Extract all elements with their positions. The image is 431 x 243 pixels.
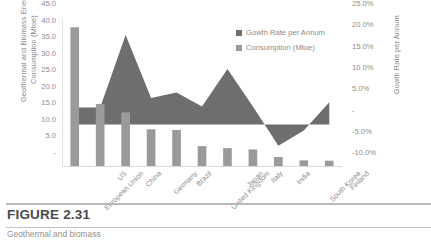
y-left-tick: 20.0 (41, 83, 56, 91)
bar (147, 129, 156, 167)
x-axis-category-label: Italy (269, 169, 285, 185)
y-right-tick: 5.0% (352, 85, 369, 93)
bar (121, 112, 130, 167)
y-left-tick: 40.0 (41, 17, 56, 25)
chart-canvas: Geothermal and Biomass Energy Consumptio… (0, 4, 431, 200)
figure-container: Geothermal and Biomass Energy Consumptio… (0, 0, 431, 243)
y-axis-right-title: Gowth Rate per Annum (392, 7, 402, 103)
y-left-tick: 35.0 (41, 33, 56, 41)
y-right-tick: -10.0% (352, 149, 376, 157)
legend-label: Gowth Rate per Annum (246, 28, 325, 37)
caption-rule-top (6, 203, 431, 205)
legend-swatch-icon (236, 45, 242, 51)
bar (223, 148, 232, 167)
figure-caption-text: Geothermal and biomass (7, 229, 101, 243)
y-left-tick: 5.0 (45, 132, 56, 140)
y-left-tick: 30.0 (41, 50, 56, 58)
y-left-tick: 25.0 (41, 66, 56, 74)
figure-caption-block: FIGURE 2.31 Geothermal and biomass (0, 203, 431, 243)
chart-legend: Gowth Rate per Annum Consumption (Mtoe) (236, 28, 325, 58)
y-right-tick: 15.0% (352, 43, 374, 51)
y-axis-left-ticks: 45.0 40.0 35.0 30.0 25.0 20.0 15.0 10.0 … (26, 4, 56, 153)
y-right-tick: 25.0% (352, 0, 374, 8)
y-left-tick: 15.0 (41, 99, 56, 107)
figure-number-label: FIGURE 2.31 (7, 207, 90, 222)
x-axis-category-label: India (295, 169, 312, 186)
y-axis-right-ticks: 25.0% 20.0% 15.0% 10.0% 5.0% - -5.0% -10… (352, 4, 392, 153)
y-right-tick: 10.0% (352, 64, 374, 72)
y-right-tick: -5.0% (352, 128, 372, 136)
y-left-tick: 10.0 (41, 116, 56, 124)
bar (70, 27, 79, 167)
legend-label: Consumption (Mtoe) (246, 43, 315, 52)
legend-swatch-icon (236, 30, 242, 36)
y-right-tick: - (352, 107, 355, 115)
caption-rule-bottom (6, 227, 431, 228)
bar (96, 104, 105, 167)
y-right-tick: 20.0% (352, 21, 374, 29)
legend-item-consumption: Consumption (Mtoe) (236, 43, 325, 52)
bar (172, 130, 181, 167)
y-left-tick: 45.0 (41, 0, 56, 8)
x-axis-category-label: China (143, 169, 163, 189)
y-left-tick: - (53, 149, 56, 157)
x-axis-baseline (62, 166, 342, 167)
bar (249, 149, 258, 167)
legend-item-growth-rate: Gowth Rate per Annum (236, 28, 325, 37)
bar (198, 146, 207, 167)
